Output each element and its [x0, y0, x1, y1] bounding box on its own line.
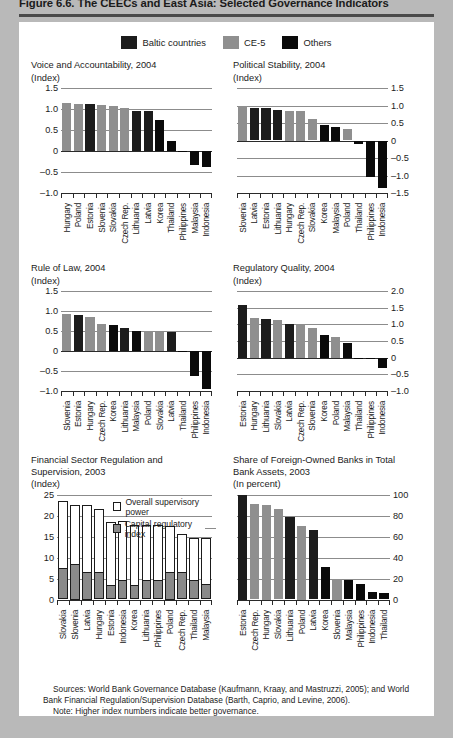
bar-lithuania	[120, 328, 129, 351]
bar-philippines	[366, 141, 375, 178]
x-label-slot: Slovenia	[237, 199, 249, 200]
bar-czech-rep	[296, 111, 305, 141]
inline-legend-label: Overall supervisory power	[125, 497, 216, 517]
bar-slot	[284, 495, 296, 600]
x-label-slot: Latvia	[165, 397, 177, 398]
x-axis-labels: EstoniaCzech Rep.HungarySlovakiaLithuani…	[237, 606, 390, 607]
x-tick	[260, 392, 272, 396]
x-label-slot: Thailand	[165, 199, 177, 200]
x-label-slot: Hungary	[61, 199, 73, 200]
x-tick	[142, 392, 154, 396]
bar-latvia	[144, 111, 153, 151]
bar-slot	[93, 495, 105, 600]
x-tick-label: Slovakia	[308, 203, 317, 232]
x-label-slot: Slovenia	[307, 397, 319, 398]
x-tick-label: Malaysia	[331, 203, 340, 234]
x-tick-label: Malaysia	[343, 401, 352, 432]
x-tick	[177, 194, 189, 198]
x-label-slot: Poland	[296, 606, 308, 607]
y-tick-label: 40	[393, 553, 403, 562]
bar-slovakia	[155, 332, 164, 351]
x-tick	[200, 601, 212, 605]
bar-slovenia	[238, 106, 247, 141]
bar-poland	[144, 331, 153, 351]
bar-slot	[57, 495, 69, 600]
x-tick	[96, 194, 108, 198]
x-label-slot: Indonesia	[366, 606, 378, 607]
x-tick	[249, 601, 261, 605]
bar-slot	[366, 495, 378, 600]
x-tick	[260, 194, 272, 198]
x-tick	[200, 392, 212, 396]
x-tick	[318, 392, 330, 396]
x-tick	[81, 601, 93, 605]
bar-slot	[107, 88, 119, 193]
bar-slovenia	[308, 328, 317, 358]
bar-hungary	[85, 317, 94, 351]
legend-swatch-ce5	[223, 36, 239, 49]
bar-slot	[119, 88, 131, 193]
x-label-slot: Poland	[73, 199, 85, 200]
y-tick-label: –1.0	[391, 171, 409, 180]
bar-slot	[154, 88, 166, 193]
x-label-slot: Malaysia	[343, 606, 355, 607]
x-tick-label: Czech Rep.	[120, 203, 129, 244]
y-tick-label: 100	[393, 490, 408, 499]
y-tick-label: 1.5	[45, 84, 58, 93]
x-label-slot: Slovakia	[154, 397, 166, 398]
bar-capital-regulatory-index	[83, 572, 91, 599]
chart-panel-regulatory-quality: Regulatory Quality, 2004(Index)–1.0–0.50…	[233, 263, 418, 449]
bar-philippines	[178, 151, 187, 152]
legend-label: CE-5	[244, 37, 265, 48]
plot-area: 020406080100EstoniaCzech Rep.HungarySlov…	[233, 495, 418, 648]
page-title: Figure 6.6. The CEECs and East Asia: Sel…	[19, 0, 389, 9]
plot-inner: –1.5–1.0–0.500.51.01.5SloveniaLatviaEsto…	[237, 88, 388, 193]
inline-legend-label: Capital regulatory index	[125, 519, 198, 539]
x-tick-label: Lithuania	[285, 610, 294, 641]
x-axis-ticks	[61, 392, 212, 396]
bar-series	[237, 495, 390, 600]
x-label-slot: Lithuania	[284, 606, 296, 607]
bar-thailand	[354, 358, 363, 359]
x-tick	[73, 392, 85, 396]
x-tick	[105, 601, 117, 605]
x-label-slot: Slovenia	[61, 397, 73, 398]
bar-slot	[73, 88, 85, 193]
x-tick	[295, 194, 307, 198]
x-tick	[131, 194, 143, 198]
x-label-slot: Indonesia	[376, 199, 388, 200]
x-tick-label: Czech Rep.	[296, 401, 305, 442]
y-tick-label: 0	[391, 136, 396, 145]
y-tick-label: 20	[393, 574, 403, 583]
x-tick	[93, 601, 105, 605]
x-tick-label: Slovenia	[238, 203, 247, 233]
x-label-slot: Poland	[142, 397, 154, 398]
bar-philippines	[356, 584, 365, 600]
y-tick-label: 1.5	[391, 303, 404, 312]
y-tick-label: –0.5	[40, 367, 58, 376]
y-tick-label: –1.5	[391, 189, 409, 198]
x-tick-label: Latvia	[309, 610, 318, 631]
y-tick-label: 20	[44, 511, 54, 520]
x-label-slot: Czech Rep.	[176, 606, 188, 607]
bar-thailand	[167, 141, 176, 151]
x-tick-label: Poland	[297, 610, 306, 634]
x-label-slot: Malaysia	[341, 397, 353, 398]
x-tick-label: Hungary	[86, 401, 95, 431]
x-tick	[154, 194, 166, 198]
bar-slot	[96, 291, 108, 391]
bar-slot	[365, 88, 377, 193]
x-tick-label: Korea	[321, 610, 330, 631]
bar-lithuania	[132, 111, 141, 151]
x-label-slot: Lithuania	[131, 199, 143, 200]
x-tick	[69, 601, 81, 605]
bar-overall-supervisory-power	[177, 534, 187, 600]
y-tick-label: 15	[44, 532, 54, 541]
x-tick	[353, 392, 365, 396]
chart-subtitle: (Index)	[31, 479, 216, 491]
bar-slot	[319, 495, 331, 600]
bar-slot	[200, 88, 212, 193]
chart-subtitle: (Index)	[31, 73, 216, 85]
bar-slot	[376, 88, 388, 193]
bar-slot	[272, 88, 284, 193]
